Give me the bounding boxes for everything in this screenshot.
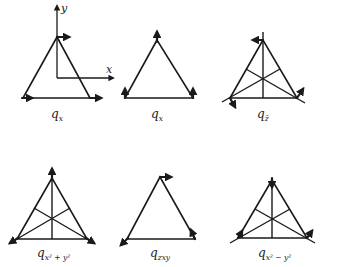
panel-label: qx [151, 107, 164, 123]
median-line [17, 208, 70, 239]
panel-qzxy: qzxy [121, 177, 195, 262]
panel-label: qzxy [150, 246, 171, 262]
x-axis-label: x [106, 63, 113, 76]
vector-arrow-icon [10, 238, 18, 243]
panel-label: qz̄ [257, 107, 269, 123]
y-axis-label: y [60, 2, 68, 15]
vector-arrow-icon [86, 238, 94, 243]
panel-qzbar: qz̄ [222, 32, 305, 123]
panel-qx-up: qx [125, 32, 193, 123]
triangle [125, 40, 193, 98]
panel-label: qx² − y² [258, 246, 291, 262]
median-line [34, 208, 87, 239]
triangle [127, 177, 195, 239]
vector-arrow-icon [307, 231, 312, 238]
median-line [222, 69, 280, 102]
vector-arrow-icon [230, 98, 235, 107]
panel-label: qx² + y² [37, 246, 70, 262]
panel-qx-axes: y x qx [22, 2, 113, 123]
panel-label: qx [51, 107, 64, 123]
vector-arrow-icon [121, 238, 128, 245]
panel-qx2-minus-y2: qx² − y² [230, 178, 315, 262]
symmetry-coordinates-diagram: y x qx qx qz̄ [0, 0, 339, 267]
vector-arrow-icon [297, 89, 303, 98]
panel-qx2-plus-y2: qx² + y² [10, 169, 94, 262]
